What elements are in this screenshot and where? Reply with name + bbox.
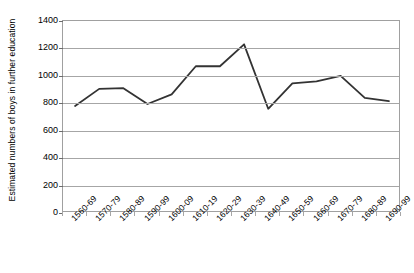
x-axis-tick-labels: 1560-691570-791580-891590-991600-091610-… <box>62 216 400 273</box>
gridline <box>63 48 399 49</box>
line-chart: Estimated numbers of boys in further edu… <box>0 0 414 273</box>
y-axis-tickmark <box>59 76 63 77</box>
y-axis-tick-label: 1000 <box>22 70 58 79</box>
y-axis-tick-labels: 0200400600800100012001400 <box>22 0 58 273</box>
y-axis-tickmark <box>59 21 63 22</box>
y-axis-tick-label: 600 <box>22 125 58 134</box>
y-axis-tick-label: 800 <box>22 98 58 107</box>
y-axis-tickmark <box>59 48 63 49</box>
gridline <box>63 131 399 132</box>
gridline <box>63 76 399 77</box>
y-axis-tick-label: 1200 <box>22 43 58 52</box>
y-axis-tick-label: 400 <box>22 153 58 162</box>
gridline <box>63 158 399 159</box>
y-axis-tick-label: 0 <box>22 208 58 217</box>
y-axis-tickmark <box>59 186 63 187</box>
y-axis-tick-label: 1400 <box>22 16 58 25</box>
y-axis-title: Estimated numbers of boys in further edu… <box>7 10 17 210</box>
data-series-line <box>63 21 401 213</box>
gridline <box>63 186 399 187</box>
y-axis-tick-label: 200 <box>22 180 58 189</box>
y-axis-tickmark <box>59 158 63 159</box>
plot-area <box>62 20 400 212</box>
gridline <box>63 103 399 104</box>
y-axis-tickmark <box>59 103 63 104</box>
y-axis-tickmark <box>59 131 63 132</box>
